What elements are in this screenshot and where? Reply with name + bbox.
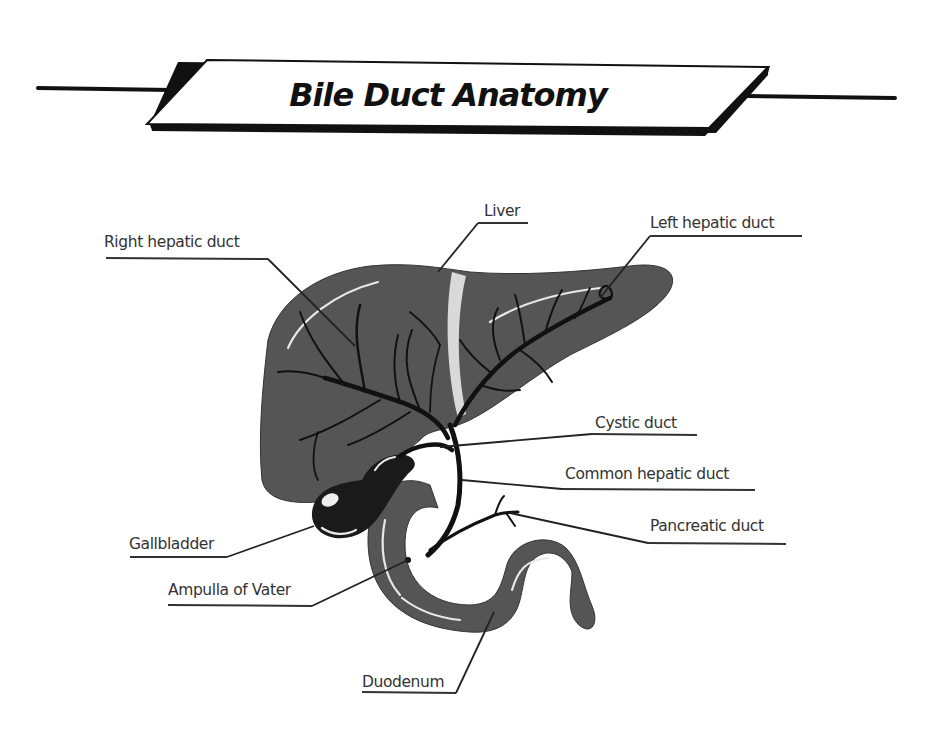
label-common-hepatic-duct: Common hepatic duct xyxy=(462,465,755,490)
title-banner: Bile Duct Anatomy xyxy=(38,60,895,136)
label-gallbladder: Gallbladder xyxy=(129,526,314,557)
label-left-hepatic-duct-text: Left hepatic duct xyxy=(650,214,774,232)
label-liver-text: Liver xyxy=(484,202,521,220)
common-hepatic-duct-underline xyxy=(562,489,755,490)
title-left-rule xyxy=(38,88,172,90)
cystic-duct-leader xyxy=(440,434,592,447)
pancreatic-duct-leader xyxy=(510,513,648,543)
bile-duct-anatomy-diagram: Bile Duct Anatomy xyxy=(0,0,938,741)
duodenum xyxy=(368,481,595,633)
ampulla-of-vater-underline xyxy=(168,605,312,606)
label-ampulla-of-vater-text: Ampulla of Vater xyxy=(168,581,292,599)
label-right-hepatic-duct-text: Right hepatic duct xyxy=(104,233,240,251)
label-pancreatic-duct-text: Pancreatic duct xyxy=(650,517,764,535)
label-cystic-duct: Cystic duct xyxy=(440,414,697,447)
label-gallbladder-text: Gallbladder xyxy=(129,535,215,553)
label-liver: Liver xyxy=(438,202,528,272)
right-hepatic-duct-underline xyxy=(106,258,268,259)
liver-leader xyxy=(438,223,478,272)
title-right-rule xyxy=(748,96,895,98)
gallbladder-leader xyxy=(227,526,314,557)
title-text: Bile Duct Anatomy xyxy=(289,76,609,114)
common-hepatic-duct-leader xyxy=(462,480,562,489)
label-duodenum-text: Duodenum xyxy=(362,673,444,691)
label-cystic-duct-text: Cystic duct xyxy=(595,414,677,432)
pancreatic-duct-branch-2 xyxy=(506,513,515,526)
pancreatic-duct-underline xyxy=(648,543,786,544)
duodenum-shape xyxy=(368,481,595,633)
duodenum-underline xyxy=(362,692,456,693)
cystic-duct-underline xyxy=(592,434,697,435)
pancreatic-duct-shape xyxy=(430,512,518,550)
label-common-hepatic-duct-text: Common hepatic duct xyxy=(565,465,729,483)
label-pancreatic-duct: Pancreatic duct xyxy=(510,513,786,544)
